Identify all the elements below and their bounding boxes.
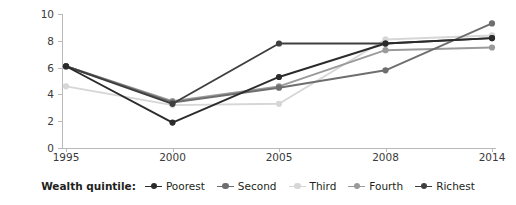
x-tick-label: 2000	[143, 152, 203, 163]
legend-label: Poorest	[166, 180, 205, 192]
legend-item-second[interactable]: Second	[217, 180, 277, 192]
legend-label: Third	[310, 180, 337, 192]
data-point	[382, 47, 388, 53]
legend-items: PoorestSecondThirdFourthRichest	[145, 180, 475, 192]
data-point	[63, 83, 69, 89]
chart-legend: Wealth quintile: PoorestSecondThirdFourt…	[0, 176, 516, 196]
data-point	[489, 20, 495, 26]
data-point	[382, 40, 388, 46]
legend-marker-icon	[348, 182, 365, 191]
x-tick-label: 2014	[462, 152, 516, 163]
data-point	[169, 119, 175, 125]
data-point	[489, 44, 495, 50]
series-richest	[63, 35, 495, 107]
data-point	[382, 67, 388, 73]
legend-item-richest[interactable]: Richest	[415, 180, 475, 192]
legend-item-third[interactable]: Third	[289, 180, 337, 192]
legend-marker-icon	[415, 182, 432, 191]
legend-marker-icon	[145, 182, 162, 191]
y-tick-label: 6	[14, 63, 54, 73]
legend-marker-icon	[289, 182, 306, 191]
legend-marker-icon	[217, 182, 234, 191]
wasting-prevalence-line-chart: Wasting prevalence among children 0–59 m…	[0, 0, 516, 205]
x-tick-label: 2008	[356, 152, 416, 163]
data-point	[169, 101, 175, 107]
y-tick-label: 2	[14, 116, 54, 126]
series-lines	[62, 14, 496, 148]
data-point	[276, 85, 282, 91]
series-second	[63, 20, 495, 105]
x-tick-label: 2005	[249, 152, 309, 163]
legend-label: Richest	[436, 180, 475, 192]
legend-label: Fourth	[369, 180, 403, 192]
data-point	[276, 74, 282, 80]
data-point	[489, 35, 495, 41]
x-tick-label: 1995	[36, 152, 96, 163]
series-line	[66, 38, 492, 104]
y-tick-label: 4	[14, 89, 54, 99]
y-tick-label: 8	[14, 36, 54, 46]
legend-title: Wealth quintile:	[41, 180, 136, 192]
data-point	[63, 63, 69, 69]
legend-label: Second	[238, 180, 277, 192]
data-point	[276, 40, 282, 46]
y-tick-label: 10	[14, 9, 54, 19]
data-point	[276, 101, 282, 107]
legend-item-poorest[interactable]: Poorest	[145, 180, 205, 192]
plot-area: 0246810 19952000200520082014	[62, 14, 496, 148]
y-tick-mark	[58, 148, 62, 149]
legend-item-fourth[interactable]: Fourth	[348, 180, 403, 192]
